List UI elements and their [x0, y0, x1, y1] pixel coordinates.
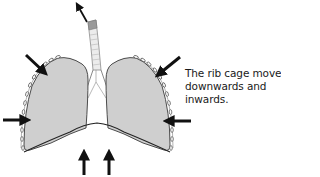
upper-left-arrow-icon [26, 55, 44, 72]
left-lung [24, 58, 88, 151]
caption: The rib cage moves downwards and inwards… [185, 67, 281, 106]
air-out-arrow-icon [78, 6, 87, 22]
caption-line-1: The rib cage moves [185, 67, 281, 80]
caption-line-3: inwards. [185, 93, 281, 106]
caption-line-2: downwards and [185, 80, 281, 93]
upper-right-arrow-icon [159, 57, 180, 74]
